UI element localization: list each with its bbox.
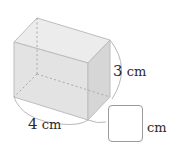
height-value: 3 <box>113 62 123 80</box>
depth-arc <box>88 120 106 123</box>
width-label: 4 cm <box>28 117 61 132</box>
width-unit: cm <box>42 117 62 132</box>
cuboid-diagram: 3 cm 4 cm cm <box>0 0 178 153</box>
height-label: 3 cm <box>113 64 146 79</box>
width-value: 4 <box>28 115 38 133</box>
answer-unit: cm <box>147 121 167 134</box>
height-unit: cm <box>127 64 147 79</box>
answer-input-box[interactable] <box>108 105 143 142</box>
